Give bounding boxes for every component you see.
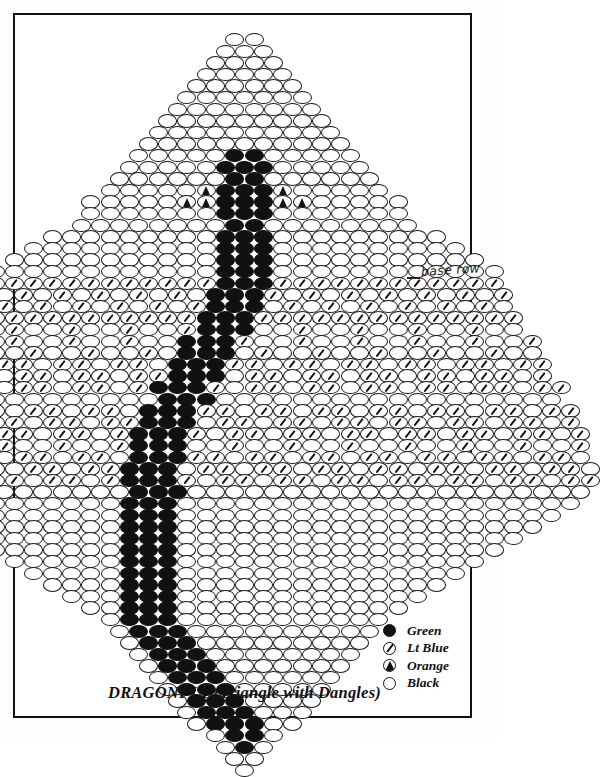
bead-slash-mark bbox=[203, 407, 210, 415]
bead-slash-mark bbox=[424, 291, 431, 299]
bead-slash-mark bbox=[68, 314, 75, 322]
bead-slash-mark bbox=[318, 279, 325, 287]
bead-slash-mark bbox=[270, 453, 277, 461]
bead-slash-mark bbox=[568, 476, 575, 484]
bead-black bbox=[43, 578, 62, 591]
bead-slash-mark bbox=[510, 418, 517, 426]
bead-slash-mark bbox=[193, 453, 200, 461]
bead-slash-mark bbox=[328, 302, 335, 310]
bead-slash-mark bbox=[241, 337, 248, 345]
bead-black bbox=[5, 555, 24, 568]
bead-slash-mark bbox=[424, 430, 431, 438]
bead-slash-mark bbox=[337, 418, 344, 426]
bead-black bbox=[0, 543, 5, 556]
bead-slash-mark bbox=[529, 418, 536, 426]
bead-slash-mark bbox=[68, 418, 75, 426]
bead-slash-mark bbox=[1, 360, 8, 368]
bead-slash-mark bbox=[49, 407, 56, 415]
bead-slash-mark bbox=[395, 476, 402, 484]
bead-slash-mark bbox=[107, 418, 114, 426]
bead-slash-mark bbox=[174, 291, 181, 299]
bead-triangle-mark bbox=[202, 186, 210, 195]
bead-slash-mark bbox=[337, 279, 344, 287]
bead-slash-mark bbox=[472, 326, 479, 334]
bead-slash-mark bbox=[299, 314, 306, 322]
bead-slash-mark bbox=[587, 476, 594, 484]
bead-slash-mark bbox=[68, 337, 75, 345]
bead-slash-mark bbox=[318, 465, 325, 473]
bead-slash-mark bbox=[347, 442, 354, 450]
bead-slash-mark bbox=[510, 407, 517, 415]
bead-slash-mark bbox=[126, 314, 133, 322]
bead-slash-mark bbox=[88, 349, 95, 357]
bead-black bbox=[523, 520, 542, 533]
bead-slash-mark bbox=[500, 291, 507, 299]
bead-slash-mark bbox=[433, 314, 440, 322]
bead-slash-mark bbox=[193, 302, 200, 310]
bead-slash-mark bbox=[356, 326, 363, 334]
bead-slash-mark bbox=[366, 384, 373, 392]
bead-slash-mark bbox=[30, 407, 37, 415]
bead-slash-mark bbox=[107, 407, 114, 415]
bead-slash-mark bbox=[472, 476, 479, 484]
bead-slash-mark bbox=[40, 372, 47, 380]
page-title: DRAGONFLY (Triangle with Dangles) bbox=[15, 683, 474, 703]
bead-slash-mark bbox=[452, 465, 459, 473]
bead-slash-mark bbox=[40, 384, 47, 392]
bead-slash-mark bbox=[49, 279, 56, 287]
bead-black bbox=[24, 567, 43, 580]
bead-slash-mark bbox=[452, 314, 459, 322]
bead-triangle-mark bbox=[279, 186, 287, 195]
bead-slash-mark bbox=[481, 453, 488, 461]
bead-slash-mark bbox=[481, 372, 488, 380]
bead-slash-mark bbox=[376, 407, 383, 415]
bead-black bbox=[0, 265, 5, 278]
bead-slash-mark bbox=[30, 349, 37, 357]
bead-slash-mark bbox=[280, 314, 287, 322]
triangle-circle-bead-icon bbox=[383, 659, 396, 672]
bead-slash-mark bbox=[30, 279, 37, 287]
bead-slash-mark bbox=[308, 360, 315, 368]
bead-slash-mark bbox=[280, 418, 287, 426]
bead-slash-mark bbox=[347, 430, 354, 438]
bead-slash-mark bbox=[414, 326, 421, 334]
bead-slash-mark bbox=[424, 384, 431, 392]
bead-slash-mark bbox=[116, 360, 123, 368]
bead-slash-mark bbox=[88, 465, 95, 473]
bead-slash-mark bbox=[500, 372, 507, 380]
bead-black bbox=[0, 497, 5, 510]
pattern-frame: base row GreenLt BlueOrangeBlack DRAGONF… bbox=[13, 13, 472, 718]
bead-slash-mark bbox=[443, 453, 450, 461]
bead-slash-mark bbox=[126, 337, 133, 345]
bead-black bbox=[62, 590, 81, 603]
bead-slash-mark bbox=[568, 465, 575, 473]
bead-slash-mark bbox=[49, 314, 56, 322]
bead-slash-mark bbox=[395, 418, 402, 426]
bead-slash-mark bbox=[337, 314, 344, 322]
bead-black bbox=[235, 764, 254, 777]
bead-slash-mark bbox=[20, 372, 27, 380]
bead-slash-mark bbox=[510, 465, 517, 473]
bead-black bbox=[187, 717, 206, 730]
bead-slash-mark bbox=[414, 418, 421, 426]
bead-slash-mark bbox=[11, 279, 18, 287]
bead-slash-mark bbox=[212, 384, 219, 392]
bead-slash-mark bbox=[472, 314, 479, 322]
legend-slash-mark bbox=[386, 644, 394, 653]
bead-slash-mark bbox=[366, 430, 373, 438]
bead-slash-mark bbox=[299, 476, 306, 484]
legend-item-green: Green bbox=[383, 622, 478, 640]
bead-black bbox=[81, 601, 100, 614]
bead-slash-mark bbox=[366, 372, 373, 380]
bead-slash-mark bbox=[20, 453, 27, 461]
bead-slash-mark bbox=[145, 279, 152, 287]
bead-slash-mark bbox=[433, 407, 440, 415]
bead-slash-mark bbox=[481, 360, 488, 368]
bead-slash-mark bbox=[548, 407, 555, 415]
bead-slash-mark bbox=[539, 360, 546, 368]
bead-slash-mark bbox=[270, 384, 277, 392]
bead-slash-mark bbox=[308, 430, 315, 438]
bead-slash-mark bbox=[539, 453, 546, 461]
bead-black bbox=[485, 543, 504, 556]
